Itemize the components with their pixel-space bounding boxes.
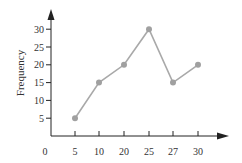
series-line (75, 29, 198, 118)
data-point (96, 80, 102, 86)
line-chart: 51015202530 51020252730 Frequency 0 (0, 0, 242, 163)
data-point (72, 115, 78, 121)
x-axis-arrow-icon (217, 133, 229, 140)
data-markers (72, 26, 201, 121)
y-tick-label: 10 (34, 95, 44, 106)
origin-label: 0 (43, 146, 48, 157)
y-axis-arrow-icon (48, 9, 55, 20)
x-tick-label: 25 (144, 146, 154, 157)
data-point (146, 26, 152, 32)
y-tick-label: 20 (34, 59, 44, 70)
data-point (121, 62, 127, 68)
y-tick-label: 15 (34, 77, 44, 88)
x-tick-label: 5 (73, 146, 78, 157)
x-tick-label: 30 (193, 146, 203, 157)
y-tick-label: 25 (34, 42, 44, 53)
x-tick-label: 20 (119, 146, 129, 157)
y-axis-label: Frequency (14, 49, 26, 96)
x-tick-label: 27 (168, 146, 178, 157)
y-axis-ticks: 51015202530 (34, 24, 51, 124)
data-point (170, 80, 176, 86)
data-point (195, 62, 201, 68)
y-tick-label: 5 (39, 113, 44, 124)
x-axis-ticks: 51020252730 (73, 131, 204, 157)
y-tick-label: 30 (34, 24, 44, 35)
x-tick-label: 10 (94, 146, 104, 157)
